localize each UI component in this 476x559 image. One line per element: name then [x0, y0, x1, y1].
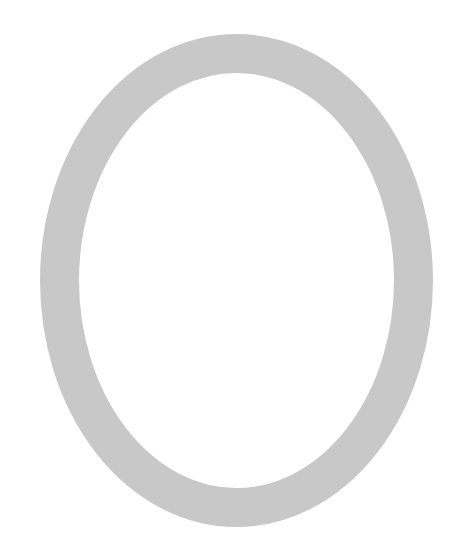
oval-ring-canvas: [0, 0, 476, 559]
oval-ring: [60, 54, 414, 508]
